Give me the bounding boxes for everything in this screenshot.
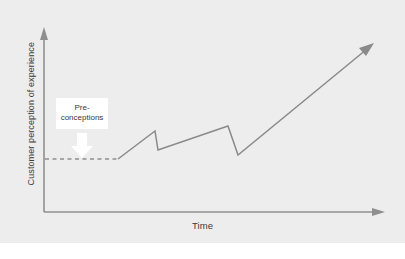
- callout-line-2: conceptions: [58, 113, 106, 123]
- plot-panel: Pre- conceptions Customer perception of …: [0, 0, 405, 243]
- x-axis-arrowhead-icon: [372, 208, 385, 216]
- figure-container: Pre- conceptions Customer perception of …: [0, 0, 405, 259]
- figure-bottom-margin: [0, 243, 405, 259]
- y-axis-title: Customer perception of experience: [26, 42, 36, 185]
- callout-line-1: Pre-: [58, 103, 106, 113]
- x-axis-title: Time: [0, 220, 405, 231]
- callout-down-arrow-icon: [68, 133, 96, 159]
- preconceptions-callout: Pre- conceptions: [56, 98, 108, 129]
- y-axis-arrowhead-icon: [40, 27, 48, 40]
- perception-trend-line: [118, 49, 367, 159]
